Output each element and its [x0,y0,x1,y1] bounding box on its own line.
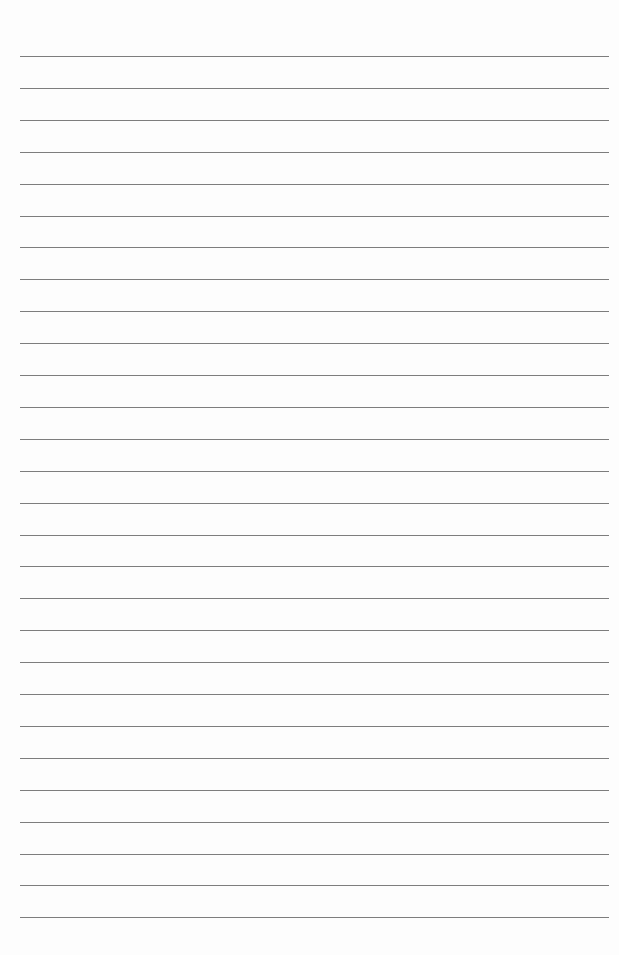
ruled-line [20,790,609,791]
ruled-line [20,726,609,727]
ruled-line [20,56,609,57]
lined-paper-sheet [0,0,619,955]
ruled-line [20,311,609,312]
ruled-line [20,758,609,759]
ruled-line [20,439,609,440]
ruled-line [20,343,609,344]
ruled-line [20,120,609,121]
ruled-line [20,662,609,663]
ruled-line [20,407,609,408]
ruled-line [20,885,609,886]
ruled-line [20,152,609,153]
ruled-line [20,822,609,823]
ruled-line [20,279,609,280]
ruled-line [20,471,609,472]
ruled-line [20,184,609,185]
ruled-line [20,247,609,248]
ruled-line [20,630,609,631]
ruled-line [20,535,609,536]
ruled-line [20,503,609,504]
ruled-line [20,917,609,918]
ruled-line [20,375,609,376]
ruled-line [20,216,609,217]
ruled-line [20,694,609,695]
ruled-line [20,598,609,599]
ruled-line [20,566,609,567]
ruled-line [20,854,609,855]
ruled-line [20,88,609,89]
